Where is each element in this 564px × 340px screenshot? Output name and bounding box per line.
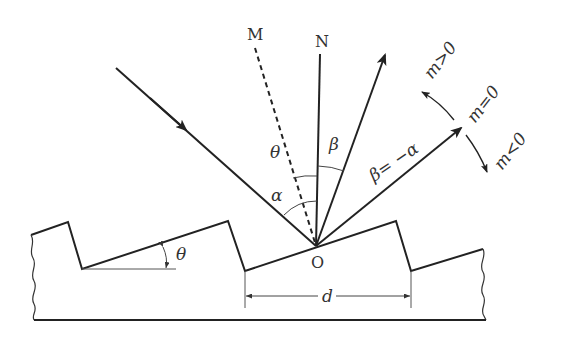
zero-order-label: m=0: [462, 82, 503, 127]
facet-normal-line: [255, 48, 316, 246]
grating-normal-label: N: [315, 32, 329, 51]
origin-label: O: [311, 253, 324, 272]
beta-label: β: [328, 134, 339, 154]
blaze-angle-arc: [163, 247, 167, 268]
alpha-arc: [284, 201, 317, 215]
blaze-angle-label: θ: [176, 244, 186, 264]
groove-spacing-dimension: d: [245, 271, 411, 308]
negative-order-arrow: [466, 135, 487, 172]
specular-relation-label: β= −α: [364, 138, 422, 186]
groove-spacing-label: d: [322, 286, 333, 306]
theta-arc: [293, 176, 317, 178]
facet-normal-label: M: [247, 25, 263, 44]
sawtooth-surface: [31, 221, 483, 271]
alpha-label: α: [271, 185, 283, 205]
blaze-angle-indicator: θ: [82, 244, 186, 269]
positive-order-label: m>0: [419, 38, 460, 83]
grating-profile: [31, 221, 486, 320]
negative-order-label: m<0: [489, 129, 530, 174]
beta-arc: [318, 166, 344, 171]
diffraction-orders: m>0 m=0 m<0: [419, 38, 530, 174]
left-break-edge: [31, 235, 35, 320]
theta-label: θ: [270, 142, 280, 162]
right-break-edge: [481, 249, 486, 320]
grating-diagram: θ d M N O θ α β β= −α m>0: [0, 0, 564, 340]
positive-order-arrow: [422, 92, 454, 120]
incident-ray: [116, 68, 316, 246]
grating-normal-line: [316, 54, 320, 246]
incident-ray-arrow: [150, 98, 186, 130]
